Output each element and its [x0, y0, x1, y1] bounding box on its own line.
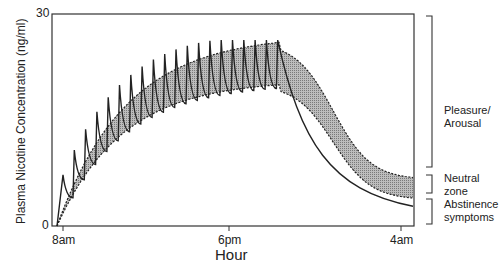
x-tick-4am: 4am	[390, 233, 413, 247]
zone-label-abstinence: Abstinence symptoms	[444, 198, 498, 224]
zone-label-line: Arousal	[444, 117, 490, 130]
x-ticks	[63, 226, 401, 231]
x-tick-8am: 8am	[52, 233, 75, 247]
y-axis-label: Plasma Nicotine Concentration (ng/ml)	[14, 19, 28, 224]
zone-label-line: zone	[444, 185, 479, 198]
zone-label-pleasure: Pleasure/ Arousal	[444, 104, 490, 130]
x-tick-6pm: 6pm	[218, 233, 241, 247]
zone-label-neutral: Neutral zone	[444, 172, 479, 198]
zone-label-line: Pleasure/	[444, 104, 490, 117]
zone-label-line: Abstinence	[444, 198, 498, 211]
chart-svg	[0, 0, 501, 268]
zone-label-line: symptoms	[444, 211, 498, 224]
zone-brackets	[426, 16, 432, 224]
x-axis-label: Hour	[215, 246, 248, 263]
y-tick-min: 0	[42, 218, 49, 232]
y-tick-max: 30	[36, 6, 49, 20]
zone-label-line: Neutral	[444, 172, 479, 185]
